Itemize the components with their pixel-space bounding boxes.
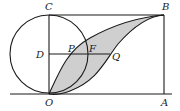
label-f: F xyxy=(88,43,97,54)
geometry-diagram: C B D P F Q O A xyxy=(0,0,180,111)
label-d: D xyxy=(35,49,44,60)
label-p: P xyxy=(67,43,75,54)
label-c: C xyxy=(45,1,53,12)
label-o: O xyxy=(45,97,53,108)
label-b: B xyxy=(161,1,169,12)
label-q: Q xyxy=(112,51,120,62)
shaded-region xyxy=(49,15,164,94)
label-a: A xyxy=(160,97,168,108)
